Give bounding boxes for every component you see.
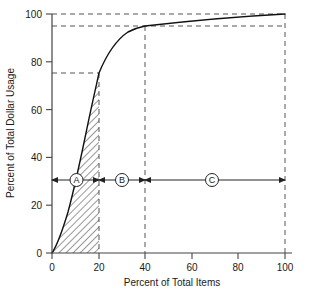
- chart-background: [0, 0, 312, 290]
- zone-a-label: A: [73, 175, 79, 185]
- y-tick-label-100: 100: [25, 9, 42, 20]
- zone-b-label: B: [119, 175, 125, 185]
- y-tick-label-60: 60: [31, 105, 43, 116]
- abc-analysis-chart: 100 80 60 40 20 0 0 20 40 60 80 100 Perc…: [0, 0, 312, 290]
- zone-c-badge: C: [206, 174, 219, 187]
- y-tick-label-0: 0: [36, 248, 42, 259]
- x-tick-label-20: 20: [93, 262, 105, 273]
- y-tick-label-20: 20: [31, 200, 43, 211]
- y-tick-label-40: 40: [31, 152, 43, 163]
- zone-b-badge: B: [116, 174, 129, 187]
- y-tick-label-80: 80: [31, 57, 43, 68]
- x-tick-label-40: 40: [139, 262, 151, 273]
- chart-canvas: 100 80 60 40 20 0 0 20 40 60 80 100 Perc…: [0, 0, 312, 290]
- x-tick-label-100: 100: [277, 262, 294, 273]
- x-tick-label-60: 60: [186, 262, 198, 273]
- x-tick-label-80: 80: [232, 262, 244, 273]
- y-axis-title: Percent of Total Dollar Usage: [5, 68, 16, 198]
- x-tick-label-0: 0: [49, 262, 55, 273]
- zone-a-badge: A: [70, 174, 83, 187]
- zone-c-label: C: [209, 175, 216, 185]
- x-axis-title: Percent of Total Items: [124, 277, 221, 288]
